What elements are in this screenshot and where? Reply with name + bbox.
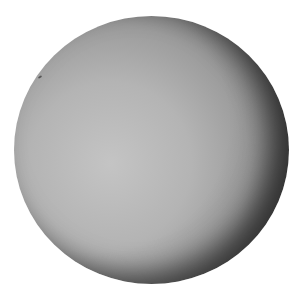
- planet-sphere: [14, 16, 289, 284]
